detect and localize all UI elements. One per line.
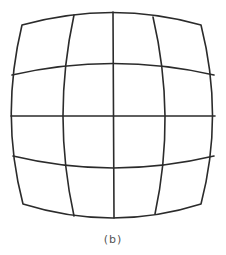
figure-caption: (b): [0, 233, 226, 246]
grid-vertical-line-2: [113, 12, 114, 218]
distorted-grid-diagram: [0, 0, 226, 255]
